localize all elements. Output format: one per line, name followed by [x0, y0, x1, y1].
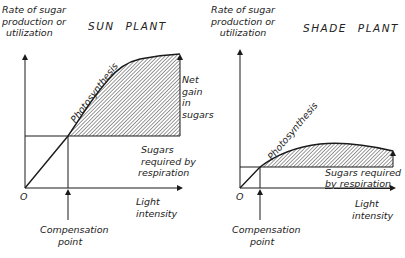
shade-respiration-label: Sugars required by respiration [325, 168, 401, 189]
sun-y-axis-label: Rate of sugar production or utilization [2, 4, 66, 39]
shade-plant-graph [240, 52, 393, 220]
shade-x-axis-label: Light intensity [352, 198, 393, 221]
sun-net-gain-label: Net gain in sugars [182, 74, 214, 120]
sun-compensation-label: Compensation point [40, 224, 100, 247]
shade-compensation-label: Compensation point [232, 224, 292, 247]
sun-respiration-label: Sugars required by respiration [138, 144, 196, 179]
sun-origin-label: O [20, 191, 27, 203]
sun-x-axis-label: Light intensity [136, 196, 177, 219]
shade-y-axis-label: Rate of sugar production or utilization [210, 4, 276, 39]
sun-plant-title: SUN PLANT [88, 20, 167, 32]
shade-origin-label: O [236, 191, 243, 203]
shade-plant-title: SHADE PLANT [303, 22, 399, 34]
diagram-canvas [0, 0, 405, 258]
